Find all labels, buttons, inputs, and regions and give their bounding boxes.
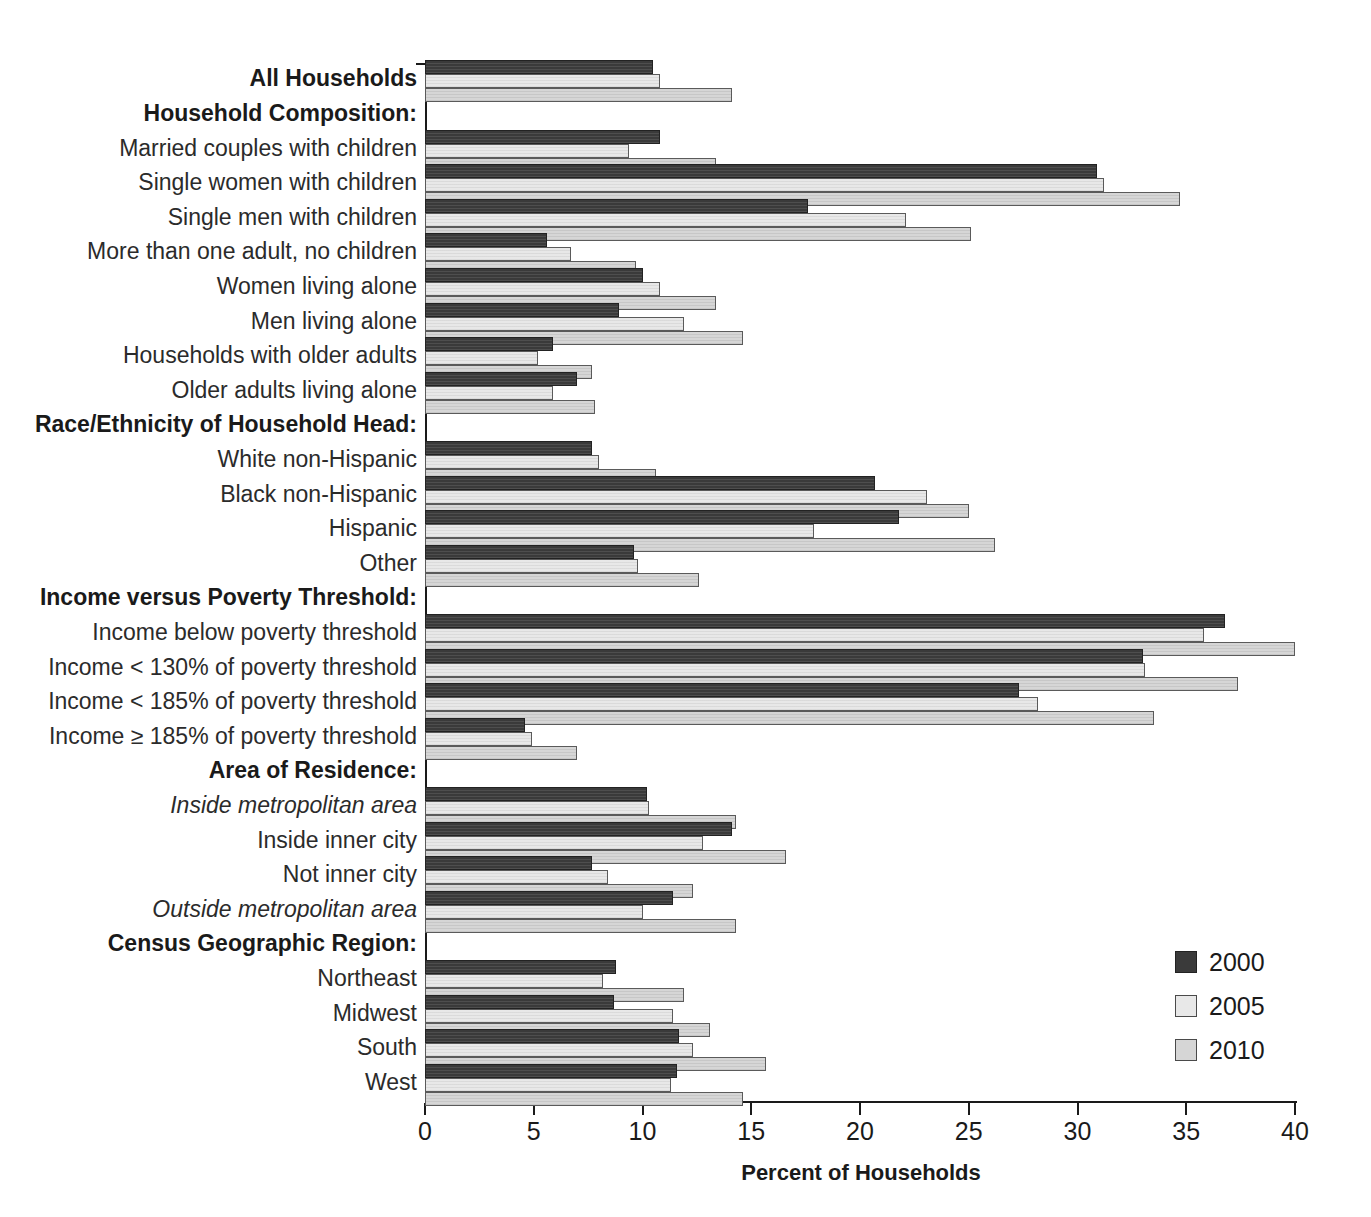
bar-2005 bbox=[425, 282, 660, 296]
x-axis-tick-label: 40 bbox=[1281, 1117, 1309, 1146]
bar-2005 bbox=[425, 1043, 693, 1057]
category-label: Not inner city bbox=[283, 863, 417, 886]
legend-item: 2000 bbox=[1175, 940, 1305, 984]
category-label: West bbox=[365, 1071, 417, 1094]
bar-2005 bbox=[425, 317, 684, 331]
bar-2000 bbox=[425, 822, 732, 836]
bar-2005 bbox=[425, 74, 660, 88]
bar-2000 bbox=[425, 718, 525, 732]
chart-legend: 200020052010 bbox=[1175, 940, 1305, 1072]
bar-2010 bbox=[425, 919, 736, 933]
bar-2000 bbox=[425, 995, 614, 1009]
bar-2000 bbox=[425, 268, 643, 282]
legend-swatch-2005 bbox=[1175, 995, 1197, 1017]
bar-2005 bbox=[425, 663, 1145, 677]
bar-chart: 0510152025303540 All HouseholdsHousehold… bbox=[0, 0, 1371, 1217]
legend-label: 2005 bbox=[1209, 992, 1265, 1021]
bar-2005 bbox=[425, 490, 927, 504]
x-axis-tick bbox=[1077, 1103, 1079, 1115]
category-label: Income ≥ 185% of poverty threshold bbox=[49, 725, 417, 748]
category-label: All Households bbox=[250, 67, 417, 90]
bar-2005 bbox=[425, 801, 649, 815]
bar-2000 bbox=[425, 683, 1019, 697]
category-label: Outside metropolitan area bbox=[152, 898, 417, 921]
bar-2000 bbox=[425, 856, 592, 870]
x-axis-tick-label: 5 bbox=[527, 1117, 541, 1146]
category-label: Midwest bbox=[333, 1002, 417, 1025]
category-label: Women living alone bbox=[217, 275, 417, 298]
bar-2000 bbox=[425, 303, 619, 317]
bar-2000 bbox=[425, 441, 592, 455]
bar-2000 bbox=[425, 614, 1225, 628]
bar-2000 bbox=[425, 164, 1097, 178]
bar-2000 bbox=[425, 199, 808, 213]
bar-2000 bbox=[425, 891, 673, 905]
bar-2000 bbox=[425, 545, 634, 559]
category-label: Income < 130% of poverty threshold bbox=[48, 656, 417, 679]
bar-2000 bbox=[425, 233, 547, 247]
x-axis-tick-label: 0 bbox=[418, 1117, 432, 1146]
bar-2005 bbox=[425, 524, 814, 538]
bar-2005 bbox=[425, 351, 538, 365]
bar-2000 bbox=[425, 372, 577, 386]
category-label: Inside inner city bbox=[257, 829, 417, 852]
bar-2000 bbox=[425, 649, 1143, 663]
x-axis-title: Percent of Households bbox=[425, 1160, 1297, 1186]
bar-2005 bbox=[425, 178, 1104, 192]
x-axis-tick-label: 20 bbox=[846, 1117, 874, 1146]
bar-2005 bbox=[425, 247, 571, 261]
category-label: Hispanic bbox=[329, 517, 417, 540]
category-label: Northeast bbox=[317, 967, 417, 990]
x-axis-tick bbox=[1185, 1103, 1187, 1115]
bar-2010 bbox=[425, 573, 699, 587]
bar-2005 bbox=[425, 559, 638, 573]
bar-2010 bbox=[425, 746, 577, 760]
bar-2010 bbox=[425, 400, 595, 414]
category-label: Income versus Poverty Threshold: bbox=[40, 586, 417, 609]
x-axis-tick bbox=[968, 1103, 970, 1115]
category-label: Older adults living alone bbox=[172, 379, 417, 402]
bar-2005 bbox=[425, 1078, 671, 1092]
category-label: More than one adult, no children bbox=[87, 240, 417, 263]
bar-2005 bbox=[425, 213, 906, 227]
x-axis-tick-label: 10 bbox=[629, 1117, 657, 1146]
category-label: Men living alone bbox=[251, 310, 417, 333]
category-label: White non-Hispanic bbox=[218, 448, 417, 471]
bar-2005 bbox=[425, 732, 532, 746]
legend-item: 2010 bbox=[1175, 1028, 1305, 1072]
bar-2000 bbox=[425, 60, 653, 74]
x-axis-tick bbox=[859, 1103, 861, 1115]
bar-2005 bbox=[425, 905, 643, 919]
bar-2005 bbox=[425, 697, 1038, 711]
category-label: Census Geographic Region: bbox=[108, 932, 417, 955]
category-label: Race/Ethnicity of Household Head: bbox=[35, 413, 417, 436]
category-label: Area of Residence: bbox=[209, 759, 417, 782]
category-label: Black non-Hispanic bbox=[220, 483, 417, 506]
bar-2000 bbox=[425, 960, 616, 974]
bar-2005 bbox=[425, 455, 599, 469]
x-axis-tick-label: 35 bbox=[1172, 1117, 1200, 1146]
bar-2005 bbox=[425, 1009, 673, 1023]
x-axis-tick-label: 30 bbox=[1064, 1117, 1092, 1146]
legend-swatch-2000 bbox=[1175, 951, 1197, 973]
legend-label: 2000 bbox=[1209, 948, 1265, 977]
category-label: Other bbox=[359, 552, 417, 575]
bar-2010 bbox=[425, 1092, 743, 1106]
category-label: Married couples with children bbox=[119, 137, 417, 160]
legend-label: 2010 bbox=[1209, 1036, 1265, 1065]
bar-2000 bbox=[425, 130, 660, 144]
bar-2000 bbox=[425, 476, 875, 490]
bar-2010 bbox=[425, 711, 1154, 725]
category-label: Inside metropolitan area bbox=[170, 794, 417, 817]
x-axis-tick-label: 25 bbox=[955, 1117, 983, 1146]
bar-2005 bbox=[425, 870, 608, 884]
x-axis-tick bbox=[1294, 1103, 1296, 1115]
bar-2000 bbox=[425, 510, 899, 524]
category-label: Households with older adults bbox=[123, 344, 417, 367]
bar-2005 bbox=[425, 144, 629, 158]
category-label: Income < 185% of poverty threshold bbox=[48, 690, 417, 713]
bar-2005 bbox=[425, 386, 553, 400]
bar-2000 bbox=[425, 787, 647, 801]
legend-swatch-2010 bbox=[1175, 1039, 1197, 1061]
bar-2010 bbox=[425, 88, 732, 102]
